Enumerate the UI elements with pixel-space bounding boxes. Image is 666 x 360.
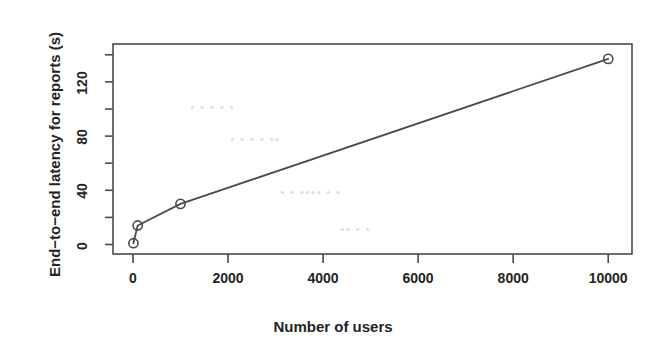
x-tick-label: 8000 (498, 270, 529, 286)
y-tick-label: 80 (74, 117, 90, 157)
x-axis-title: Number of users (0, 318, 666, 335)
x-tick-label: 10000 (589, 270, 628, 286)
y-axis-ticks (105, 55, 113, 245)
x-axis-ticks (133, 254, 608, 263)
x-tick-label: 6000 (403, 270, 434, 286)
y-tick-label: 0 (74, 226, 90, 266)
x-tick-label: 2000 (212, 270, 243, 286)
plot-canvas (0, 0, 666, 360)
data-point-markers (129, 54, 613, 247)
data-series-line (133, 59, 608, 243)
x-tick-label: 0 (129, 270, 137, 286)
chart-figure: • • • • • • • • • •• • • •••• • • •• • •… (0, 0, 666, 360)
y-tick-label: 40 (74, 171, 90, 211)
plot-frame (113, 44, 632, 254)
y-axis-title: End−to−end latency for reports (s) (46, 5, 63, 305)
x-tick-label: 4000 (308, 270, 339, 286)
y-tick-label: 120 (74, 63, 90, 103)
